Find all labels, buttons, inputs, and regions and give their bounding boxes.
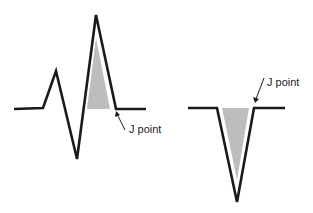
- left-waveform-line: [14, 15, 146, 159]
- right-qs-complex: J point: [188, 76, 299, 202]
- right-shaded-area: [222, 108, 249, 180]
- right-j-point-arrow: [256, 78, 264, 99]
- left-qrs-complex: J point: [14, 15, 161, 159]
- right-j-point-label: J point: [267, 76, 299, 88]
- ecg-diagram: J point J point: [0, 0, 313, 213]
- left-j-point-arrow: [117, 114, 125, 130]
- left-j-point-label: J point: [129, 123, 161, 135]
